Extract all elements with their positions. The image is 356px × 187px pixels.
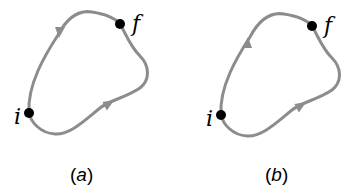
initial-point-label: i	[14, 104, 21, 129]
path-diagram: i f (a) i f (b)	[0, 0, 356, 187]
closed-path-b	[221, 14, 340, 136]
final-point-f	[115, 19, 125, 29]
closed-path-a	[29, 12, 148, 134]
initial-point-i	[24, 108, 34, 118]
panel-label-b: (b)	[265, 164, 288, 185]
final-point-f	[307, 21, 317, 31]
final-point-label: f	[322, 13, 336, 38]
initial-point-label: i	[206, 106, 213, 131]
panel-a: i f (a)	[14, 11, 148, 185]
panel-label-a: (a)	[70, 164, 93, 185]
initial-point-i	[216, 110, 226, 120]
panel-b: i f (b)	[206, 13, 340, 185]
final-point-label: f	[130, 11, 144, 36]
